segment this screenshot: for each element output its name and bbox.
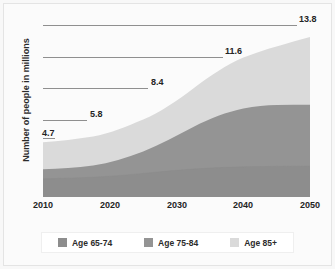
legend-label-age-65-74: Age 65-74: [72, 238, 112, 248]
plot-area: [43, 20, 310, 197]
value-label-13-8: 13.8: [299, 14, 317, 24]
leader-line-11-6: [43, 57, 223, 58]
x-tick-2050: 2050: [287, 200, 333, 210]
y-axis-title: Number of people in millions: [21, 25, 37, 175]
chart-screenshot: Number of people in millions 13.8 11.6 8…: [0, 0, 335, 269]
leader-line-5-8: [43, 120, 87, 121]
legend-swatch-age-85-plus: [230, 238, 239, 247]
value-label-11-6: 11.6: [225, 46, 242, 56]
legend-swatch-age-65-74: [58, 238, 67, 247]
leader-line-13-8: [43, 25, 297, 26]
area-chart: Number of people in millions 13.8 11.6 8…: [0, 0, 335, 269]
legend-item-age-75-84: Age 75-84: [144, 238, 198, 248]
legend-label-age-75-84: Age 75-84: [158, 238, 198, 248]
legend-label-age-85-plus: Age 85+: [244, 238, 277, 248]
x-tick-2030: 2030: [154, 200, 200, 210]
legend-swatch-age-75-84: [144, 238, 153, 247]
stacked-area-svg: [43, 20, 310, 197]
x-tick-2040: 2040: [220, 200, 266, 210]
x-tick-2010: 2010: [20, 200, 66, 210]
value-label-4-7: 4.7: [42, 128, 55, 138]
legend-item-age-65-74: Age 65-74: [58, 238, 112, 248]
value-label-8-4: 8.4: [151, 77, 164, 87]
leader-line-4-7: [43, 138, 55, 139]
value-label-5-8: 5.8: [90, 109, 103, 119]
chart-legend: Age 65-74 Age 75-84 Age 85+: [41, 232, 294, 253]
leader-line-8-4: [43, 88, 148, 89]
legend-item-age-85-plus: Age 85+: [230, 238, 277, 248]
x-tick-2020: 2020: [87, 200, 133, 210]
